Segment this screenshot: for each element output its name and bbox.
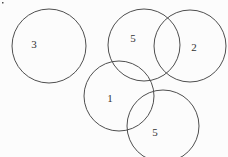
overlapping-circles-diagram: 35215 (0, 0, 228, 157)
circle-4-label: 5 (152, 126, 158, 138)
circle-0-label: 3 (31, 38, 37, 50)
circle-3-label: 1 (107, 92, 113, 104)
diagram-background (0, 0, 228, 157)
circle-2-label: 2 (191, 41, 197, 53)
corner-speck (2, 2, 4, 4)
circle-1-label: 5 (130, 32, 136, 44)
diagram-canvas: 35215 (0, 0, 228, 157)
